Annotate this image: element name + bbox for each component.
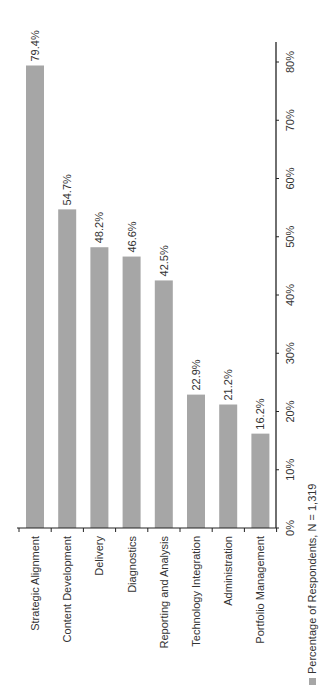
value-tick-label: 10% xyxy=(284,459,296,481)
bar-technology-integration xyxy=(187,395,205,528)
category-label: Diagnostics xyxy=(126,536,138,593)
category-label: Technology Integration xyxy=(190,536,202,647)
legend-swatch xyxy=(309,678,316,685)
bar-chart: 79.4%54.7%48.2%46.6%42.5%22.9%21.2%16.2%… xyxy=(0,0,321,693)
bar-diagnostics xyxy=(123,257,141,528)
bar-content-development xyxy=(58,209,76,528)
bar-strategic-alignment xyxy=(26,65,44,528)
value-tick-label: 80% xyxy=(284,51,296,73)
category-label: Content Development xyxy=(61,536,73,642)
value-tick-label: 50% xyxy=(284,226,296,248)
value-tick-label: 30% xyxy=(284,342,296,364)
category-label: Strategic Alignment xyxy=(29,536,41,631)
data-label: 21.2% xyxy=(222,369,234,400)
bar-reporting-and-analysis xyxy=(155,280,173,528)
data-label: 48.2% xyxy=(93,212,105,243)
data-label: 42.5% xyxy=(158,245,170,276)
value-tick-label: 0% xyxy=(284,520,296,536)
data-label: 16.2% xyxy=(254,398,266,429)
legend: Percentage of Respondents, N = 1,319 xyxy=(306,484,318,686)
bar-portfolio-management xyxy=(251,434,269,528)
legend-label: Percentage of Respondents, N = 1,319 xyxy=(306,484,318,675)
category-label: Portfolio Management xyxy=(254,536,266,644)
data-label: 79.4% xyxy=(29,30,41,61)
category-label: Reporting and Analysis xyxy=(158,536,170,649)
value-tick-label: 70% xyxy=(284,109,296,131)
category-labels-group: Strategic AlignmentContent DevelopmentDe… xyxy=(29,536,266,649)
value-tick-label: 40% xyxy=(284,284,296,306)
value-tick-label: 20% xyxy=(284,400,296,422)
value-tick-label: 60% xyxy=(284,167,296,189)
bar-administration xyxy=(219,405,237,528)
category-label: Delivery xyxy=(93,536,105,576)
data-label: 54.7% xyxy=(61,174,73,205)
data-label: 46.6% xyxy=(126,221,138,252)
category-label: Administration xyxy=(222,536,234,606)
bars-group xyxy=(26,65,269,528)
bar-delivery xyxy=(90,247,108,528)
data-label: 22.9% xyxy=(190,359,202,390)
